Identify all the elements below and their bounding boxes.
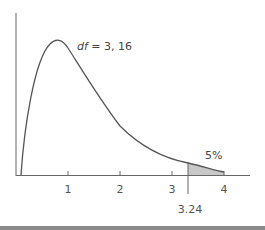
x-tick-label-3: 3 — [169, 183, 176, 196]
df-annotation: df = 3, 16 — [77, 40, 132, 53]
x-tick-label-2: 2 — [117, 183, 124, 196]
bottom-divider — [0, 226, 265, 230]
f-distribution-chart: df = 3, 16 5% 1 2 3 4 3.24 — [0, 0, 265, 230]
x-tick-label-4: 4 — [221, 183, 228, 196]
x-tick-label-1: 1 — [65, 183, 72, 196]
critical-value-label: 3.24 — [178, 203, 203, 216]
tail-area-label: 5% — [205, 149, 222, 162]
density-curve — [21, 40, 224, 175]
